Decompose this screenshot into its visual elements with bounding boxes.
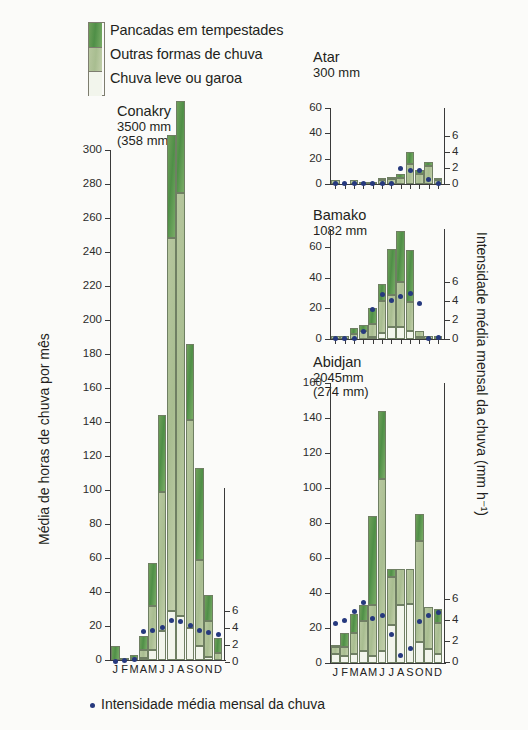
y-tick-mark	[325, 108, 330, 109]
figure-root: Pancadas em tempestades Outras formas de…	[0, 0, 528, 730]
intensity-point-J	[333, 336, 338, 341]
y2-tick-mark	[445, 599, 450, 600]
x-tick-mark	[419, 185, 420, 189]
y-tick-mark	[325, 663, 330, 664]
bar-J-6	[167, 135, 176, 660]
y2-tick-mark	[445, 184, 450, 185]
legend-swatch-other	[89, 47, 102, 72]
y-tick-mark	[105, 660, 110, 661]
plot-bamako: 02040600246	[330, 229, 448, 339]
y2-tick-mark	[445, 620, 450, 621]
intensity-point-F	[342, 336, 347, 341]
bar-segment-storm	[424, 162, 433, 166]
x-tick-label-D: D	[433, 667, 444, 678]
bar-segment-other	[434, 623, 443, 655]
y-tick-mark	[325, 558, 330, 559]
y2-tick-label: 0	[452, 178, 458, 190]
y-tick-mark	[105, 252, 110, 253]
y2-tick-mark	[445, 136, 450, 137]
intensity-point-M	[352, 181, 357, 186]
y-axis-line	[330, 108, 331, 184]
bar-J-0	[111, 646, 120, 660]
intensity-point-D	[436, 610, 441, 615]
intensity-point-J	[389, 181, 394, 186]
y-axis-line	[110, 150, 111, 660]
intensity-point-J	[113, 659, 118, 664]
bar-segment-other	[387, 577, 396, 624]
intensity-point-S	[408, 646, 413, 651]
bar-segment-other	[378, 301, 387, 333]
bar-segment-light	[368, 656, 377, 663]
y-tick-label: 40	[68, 586, 102, 598]
y-tick-mark	[105, 184, 110, 185]
bar-segment-light	[204, 657, 213, 660]
y-tick-mark	[105, 422, 110, 423]
y-tick-mark	[105, 524, 110, 525]
legend-label-storm: Pancadas em tempestades	[110, 22, 283, 38]
bar-segment-other	[350, 633, 359, 654]
x-tick-label-D: D	[213, 664, 224, 675]
y2-tick-label: 4	[232, 622, 238, 634]
y2-axis-line	[444, 383, 445, 663]
y-tick-label: 100	[288, 482, 322, 494]
y-tick-label: 120	[288, 447, 322, 459]
intensity-point-S	[408, 291, 413, 296]
y2-tick-label: 6	[232, 605, 238, 617]
bottom-caption: Intensidade média mensal da chuva	[101, 696, 325, 712]
y-tick-mark	[325, 593, 330, 594]
bar-segment-other	[396, 569, 405, 606]
y-tick-mark	[325, 383, 330, 384]
intensity-point-N	[426, 336, 431, 341]
y2-tick-label: 6	[452, 130, 458, 142]
y-tick-label: 240	[68, 246, 102, 258]
y2-tick-label: 0	[232, 656, 238, 668]
intensity-point-O	[197, 628, 202, 633]
intensity-point-J	[389, 632, 394, 637]
y-tick-mark	[105, 218, 110, 219]
intensity-point-F	[342, 181, 347, 186]
bar-segment-storm	[396, 231, 405, 283]
legend-swatch-stack	[88, 22, 105, 96]
intensity-point-J	[160, 625, 165, 630]
y-tick-mark	[105, 150, 110, 151]
bar-segment-other	[167, 238, 176, 610]
y-tick-label: 0	[288, 657, 322, 669]
y2-tick-label: 2	[452, 314, 458, 326]
bar-M-4	[368, 308, 377, 339]
bar-segment-other	[415, 174, 424, 184]
y2-tick-mark	[445, 339, 450, 340]
y-axis-line	[330, 229, 331, 339]
y-axis-line	[330, 383, 331, 663]
plot-abidjan: 020406080100120140160JFMAMJJASOND0246	[330, 383, 448, 663]
y-tick-label: 0	[68, 654, 102, 666]
y-tick-label: 40	[288, 127, 322, 139]
legend-swatch-storm	[89, 23, 102, 47]
bar-J-5	[378, 411, 387, 663]
y-tick-label: 80	[68, 518, 102, 530]
y-tick-mark	[325, 133, 330, 134]
x-axis-line	[330, 663, 446, 664]
bar-segment-storm	[139, 636, 148, 650]
y-tick-label: 140	[68, 416, 102, 428]
y-tick-label: 280	[68, 178, 102, 190]
panel-subtitle-atar-1: 300 mm	[313, 66, 360, 80]
bar-segment-other	[214, 653, 223, 660]
y-tick-mark	[105, 558, 110, 559]
x-tick-mark	[419, 340, 420, 344]
bar-segment-other	[186, 420, 195, 627]
y-tick-label: 20	[288, 153, 322, 165]
intensity-point-M	[132, 657, 137, 662]
y-tick-label: 20	[68, 620, 102, 632]
legend-label-light: Chuva leve ou garoa	[110, 70, 242, 86]
bar-segment-storm	[378, 411, 387, 479]
x-tick-mark	[401, 340, 402, 344]
y2-tick-mark	[445, 641, 450, 642]
bar-segment-other	[378, 479, 387, 651]
bar-segment-other	[195, 560, 204, 647]
y2-tick-label: 2	[232, 639, 238, 651]
y2-tick-label: 4	[452, 295, 458, 307]
bar-segment-storm	[406, 152, 415, 163]
y-tick-mark	[325, 184, 330, 185]
y-tick-label: 60	[68, 552, 102, 564]
x-axis-line	[110, 660, 226, 661]
